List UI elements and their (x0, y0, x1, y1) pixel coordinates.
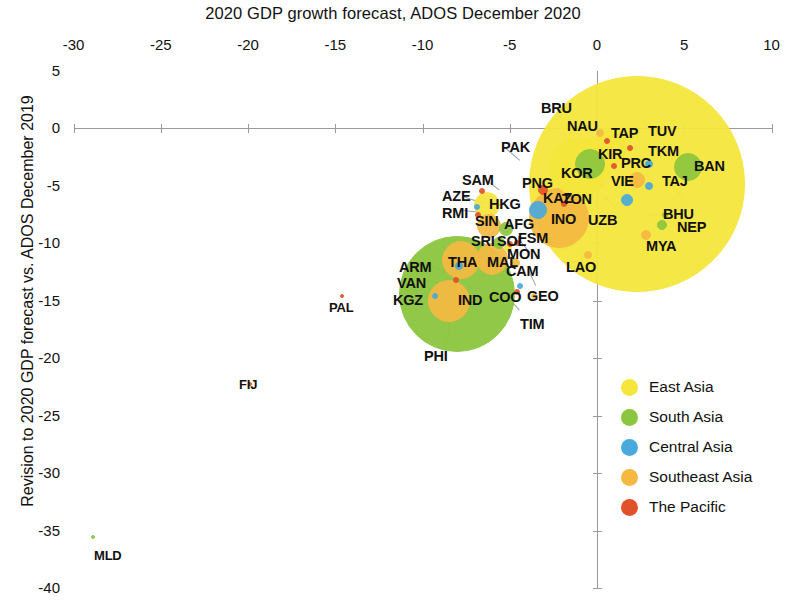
bubble-label-tuv: TUV (648, 123, 676, 139)
y-tick-label: -20 (16, 349, 60, 366)
bubble-label-uzb: UZB (588, 212, 617, 228)
bubble-label-kir: KIR (598, 146, 622, 162)
bubble-label-phi: PHI (424, 348, 448, 364)
bubble-label-kor: KOR (561, 165, 593, 181)
legend-item-southeast-asia[interactable]: Southeast Asia (621, 462, 752, 492)
legend-label: East Asia (649, 378, 714, 396)
bubble-label-sin: SIN (475, 213, 499, 229)
x-axis-tick (161, 124, 162, 133)
bubble-label-cam: CAM (506, 263, 538, 279)
legend-color-swatch-icon (621, 379, 638, 396)
x-axis-tick (248, 124, 249, 133)
x-tick-label: -10 (393, 36, 453, 53)
bubble-taj[interactable] (645, 182, 653, 190)
bubble-label-prc: PRC (621, 155, 651, 171)
y-tick-label: -5 (16, 177, 60, 194)
bubble-tuv[interactable] (627, 145, 633, 151)
y-axis-tick (593, 531, 602, 532)
bubble-label-rmi: RMI (442, 205, 468, 221)
y-tick-label: -10 (16, 234, 60, 251)
y-axis-tick (593, 416, 602, 417)
y-tick-label: 5 (16, 62, 60, 79)
bubble-label-taj: TAJ (662, 173, 688, 189)
bubble-label-ban: BAN (694, 158, 725, 174)
y-axis-tick (593, 358, 602, 359)
legend-label: South Asia (649, 408, 723, 426)
bubble-label-mya: MYA (646, 238, 676, 254)
bubble-label-lao: LAO (566, 259, 596, 275)
bubble-mld[interactable] (91, 535, 95, 539)
legend-label: Central Asia (649, 438, 733, 456)
x-tick-label: -5 (480, 36, 540, 53)
bubble-van[interactable] (453, 277, 459, 283)
legend-label: The Pacific (649, 498, 726, 516)
x-axis-tick (335, 124, 336, 133)
bubble-label-sam: SAM (462, 172, 494, 188)
chart-title: 2020 GDP growth forecast, ADOS December … (0, 4, 786, 23)
x-tick-label: -30 (44, 36, 104, 53)
bubble-label-arm: ARM (399, 259, 431, 275)
bubble-label-nau: NAU (567, 118, 598, 134)
y-tick-label: -15 (16, 292, 60, 309)
bubble-label-pak: PAK (501, 139, 530, 155)
legend-item-east-asia[interactable]: East Asia (621, 372, 752, 402)
x-axis-tick (772, 124, 773, 133)
bubble-label-ino: INO (551, 211, 576, 227)
y-tick-label: -35 (16, 522, 60, 539)
legend-label: Southeast Asia (649, 468, 752, 486)
bubble-label-hkg: HKG (489, 196, 521, 212)
bubble-label-png: PNG (522, 175, 553, 191)
bubble-pal[interactable] (340, 294, 344, 298)
y-axis-tick (593, 473, 602, 474)
bubble-geo[interactable] (517, 283, 523, 289)
legend-color-swatch-icon (621, 499, 638, 516)
y-tick-label: -30 (16, 464, 60, 481)
bubble-label-ton: TON (562, 191, 592, 207)
bubble-label-bru: BRU (541, 100, 572, 116)
bubble-label-fij: FIJ (239, 377, 257, 392)
bubble-label-van: VAN (397, 275, 426, 291)
bubble-label-geo: GEO (527, 288, 559, 304)
bubble-kgz[interactable] (432, 293, 438, 299)
bubble-label-tkm: TKM (648, 143, 679, 159)
bubble-label-kgz: KGZ (393, 292, 423, 308)
y-tick-label: -40 (16, 579, 60, 596)
y-axis-tick (593, 301, 602, 302)
x-tick-label: 10 (742, 36, 786, 53)
legend-color-swatch-icon (621, 409, 638, 426)
bubble-label-vie: VIE (611, 173, 634, 189)
legend-color-swatch-icon (621, 469, 638, 486)
legend-item-south-asia[interactable]: South Asia (621, 402, 752, 432)
bubble-chart: 2020 GDP growth forecast, ADOS December … (0, 0, 786, 613)
bubble-label-tim: TIM (520, 316, 544, 332)
x-axis-tick (74, 124, 75, 133)
bubble-label-coo: COO (489, 289, 521, 305)
bubble-label-tha: THA (448, 254, 477, 270)
bubble-label-tap: TAP (611, 125, 638, 141)
x-tick-label: -20 (218, 36, 278, 53)
legend-item-the-pacific[interactable]: The Pacific (621, 492, 752, 522)
bubble-label-sri: SRI (471, 233, 495, 249)
bubble-label-fsm: FSM (518, 230, 548, 246)
x-tick-label: -25 (131, 36, 191, 53)
y-tick-label: -25 (16, 407, 60, 424)
legend-item-central-asia[interactable]: Central Asia (621, 432, 752, 462)
y-axis-tick (593, 588, 602, 589)
x-axis-tick (510, 124, 511, 133)
x-axis-tick (423, 124, 424, 133)
chart-legend: East AsiaSouth AsiaCentral AsiaSoutheast… (621, 372, 752, 522)
bubble-lao[interactable] (584, 251, 592, 259)
bubble-label-pal: PAL (329, 300, 353, 315)
x-tick-label: 0 (567, 36, 627, 53)
y-tick-label: 0 (16, 119, 60, 136)
bubble-label-nep: NEP (677, 219, 706, 235)
bubble-label-ind: IND (458, 292, 482, 308)
x-tick-label: 5 (654, 36, 714, 53)
legend-color-swatch-icon (621, 439, 638, 456)
bubble-aze[interactable] (474, 204, 480, 210)
bubble-label-aze: AZE (442, 188, 470, 204)
bubble-label-mld: MLD (94, 548, 122, 563)
x-tick-label: -15 (305, 36, 365, 53)
